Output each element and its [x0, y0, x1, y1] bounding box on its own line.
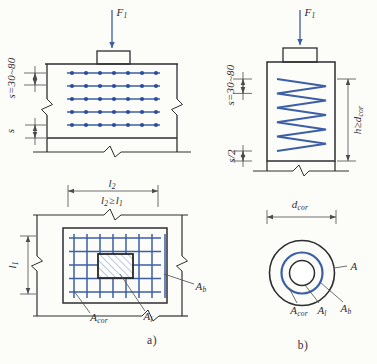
- label-s-half: s/2: [226, 149, 237, 162]
- dim-dcor: [267, 210, 336, 224]
- slab-bottom-edge: [33, 310, 188, 321]
- slab-top-edge: [33, 209, 188, 220]
- break-mark: [177, 256, 188, 271]
- slab-left-edge: [32, 215, 43, 316]
- label-spacing-range-a: s=30~80: [6, 57, 17, 98]
- label-al-a: Al: [143, 311, 152, 324]
- caption-b: b): [298, 340, 309, 352]
- label-force-b: F1: [305, 7, 316, 20]
- bearing-plate: [283, 48, 317, 62]
- loaded-area: [98, 254, 133, 278]
- dim-s-range-b: [233, 72, 252, 100]
- break-mark: [42, 99, 53, 115]
- leader-a-b: [334, 266, 347, 268]
- break-mark: [104, 209, 121, 220]
- break-mark: [104, 146, 121, 157]
- dim-s-range-a: [24, 66, 46, 92]
- label-h-ge-dcor: h≥dcor: [352, 106, 365, 134]
- caption-a: a): [147, 335, 157, 347]
- break-mark: [172, 99, 183, 115]
- support-line: [33, 146, 191, 157]
- label-al-b: Al: [317, 305, 326, 318]
- loaded-area-circle: [290, 261, 315, 286]
- figure-b-plan: [267, 210, 347, 306]
- bearing-plate: [97, 51, 130, 64]
- label-spacing-a: s: [5, 129, 16, 133]
- label-l1: l1: [7, 261, 20, 268]
- label-dcor: dcor: [292, 199, 308, 212]
- label-spacing-range-b: s=30~80: [225, 64, 236, 105]
- label-l2-ge-l1: l2≥l1: [101, 195, 123, 208]
- figure-a-elevation: [24, 10, 191, 157]
- member-right-edge: [172, 64, 183, 152]
- label-acor-a: Acor: [90, 312, 108, 325]
- label-a-section: A: [351, 261, 358, 272]
- label-ab-b: Ab: [341, 303, 352, 316]
- figure-b-elevation: [233, 10, 356, 176]
- label-force-a: F1: [117, 7, 128, 20]
- label-acor-b: Acor: [290, 305, 308, 318]
- break-mark: [32, 256, 43, 271]
- reinforcement-diagram: F1 s=30~80 s l2 l2≥l1 l1 Acor Al Ab a) F…: [0, 0, 377, 364]
- leader-ab-a: [164, 274, 194, 284]
- label-l2: l2: [108, 178, 115, 191]
- member-left-edge: [42, 64, 53, 152]
- spiral-reinforcement: [277, 79, 326, 151]
- slab-right-edge: [177, 215, 188, 316]
- label-ab-a: Ab: [196, 281, 207, 294]
- break-mark: [293, 165, 309, 176]
- dim-s-a: [25, 118, 46, 145]
